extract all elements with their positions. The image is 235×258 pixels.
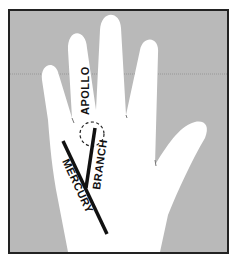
apollo-label: APOLLO: [79, 66, 91, 115]
palm-diagram: APOLLO BRANCH MERCURY: [0, 0, 235, 258]
